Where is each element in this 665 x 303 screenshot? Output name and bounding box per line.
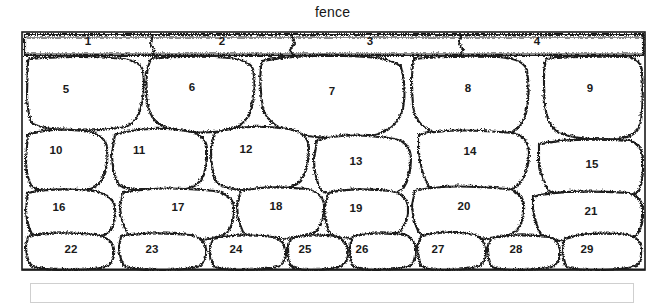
- stone-number-3: 3: [367, 35, 373, 47]
- stone-number-2: 2: [219, 35, 225, 47]
- stone-number-20: 20: [458, 200, 471, 212]
- stone-number-24: 24: [230, 243, 243, 255]
- stone-number-10: 10: [50, 144, 63, 156]
- stone-number-19: 19: [350, 202, 363, 214]
- bottom-panel: [30, 283, 634, 303]
- cap-row-group: [24, 34, 643, 55]
- stone-number-16: 16: [53, 201, 66, 213]
- stone-number-1: 1: [85, 35, 92, 47]
- stone-number-29: 29: [581, 243, 594, 255]
- stone-number-15: 15: [586, 158, 599, 170]
- stone-number-23: 23: [146, 243, 159, 255]
- stone-number-11: 11: [133, 144, 146, 156]
- stone-number-17: 17: [172, 201, 185, 213]
- stone-number-9: 9: [587, 82, 593, 94]
- stone-number-25: 25: [299, 243, 312, 255]
- stone-number-5: 5: [63, 83, 70, 95]
- stone-number-13: 13: [350, 155, 363, 167]
- stone-number-26: 26: [356, 243, 369, 255]
- stone-number-27: 27: [432, 243, 445, 255]
- stone-number-14: 14: [464, 145, 477, 157]
- stone-number-6: 6: [189, 81, 195, 93]
- stone-number-7: 7: [329, 85, 335, 97]
- stone-number-12: 12: [240, 143, 253, 155]
- stone-number-22: 22: [65, 243, 78, 255]
- stone-number-4: 4: [534, 35, 541, 47]
- stone-number-21: 21: [585, 205, 598, 217]
- stone-number-8: 8: [465, 82, 472, 94]
- stone-number-18: 18: [270, 200, 283, 212]
- stone-number-28: 28: [510, 243, 523, 255]
